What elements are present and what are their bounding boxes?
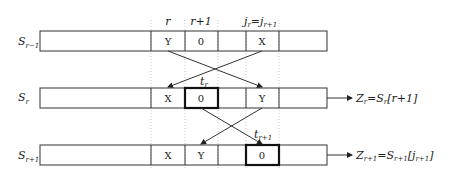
state-row-prev: Sr−1 Y 0 X [18,31,327,51]
output-formula: Zr+1=Sr+1[jr+1] [355,149,434,163]
row-label-next: Sr+1 [18,149,39,164]
cell-r1: Y [197,150,205,161]
row-label-prev: Sr−1 [18,35,39,50]
cell-r: Y [164,36,172,47]
cell-j: X [258,36,266,47]
output-formula: Zr=Sr[r+1] [355,92,418,106]
cell-j: 0 [259,150,265,161]
header-r-plus-1: r+1 [190,15,211,28]
cell-r: X [164,150,172,161]
header-j: jr=jr+1 [241,15,277,29]
cell-r: X [164,93,172,104]
state-row-current: Sr X 0 Y Zr=Sr[r+1] [18,88,418,108]
swap-label-2: tr+1 [254,128,272,142]
header-r: r [165,15,171,28]
cell-j: Y [258,93,266,104]
rc4-swap-diagram: r r+1 jr=jr+1 Sr−1 Y 0 X Sr X 0 Y Zr=Sr[… [0,0,456,179]
cell-r1: 0 [198,93,204,104]
row-label-current: Sr [18,91,30,106]
swap-arrows-2 [201,108,262,144]
cell-r1: 0 [198,36,204,47]
state-row-next: Sr+1 X Y 0 Zr+1=Sr+1[jr+1] [18,145,434,165]
swap-arrows-1 [168,51,262,87]
swap-label-1: tr [200,75,208,89]
svg-text:jr=jr+1: jr=jr+1 [241,15,277,29]
